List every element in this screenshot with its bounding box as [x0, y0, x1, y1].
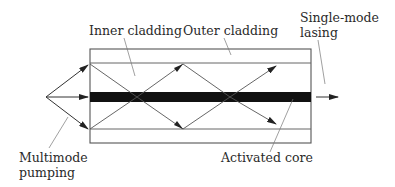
label-single-mode: Single-mode — [300, 10, 379, 25]
pump-arrows — [46, 65, 88, 129]
leader-multimode — [49, 117, 68, 148]
leader-outer-cladding — [224, 38, 231, 55]
arrowhead-top-peak — [174, 64, 183, 72]
label-inner-cladding: Inner cladding — [89, 23, 182, 38]
label-outer-cladding: Outer cladding — [183, 23, 278, 38]
label-activated-core: Activated core — [220, 150, 313, 165]
fiber-body — [90, 49, 311, 143]
pump-arrow-down — [46, 97, 88, 129]
pump-arrow-up — [46, 65, 88, 97]
activated-core-band — [90, 92, 311, 102]
leader-inner-cladding — [124, 38, 135, 76]
label-multimode: Multimode — [19, 150, 88, 165]
label-pumping: pumping — [19, 165, 75, 180]
arrowhead-bottom-peak — [174, 121, 183, 129]
fiber-diagram: Inner cladding Outer cladding Single-mod… — [0, 0, 395, 187]
leader-activated-core — [270, 99, 293, 152]
leader-single-mode — [318, 40, 325, 84]
label-lasing: lasing — [300, 25, 338, 40]
